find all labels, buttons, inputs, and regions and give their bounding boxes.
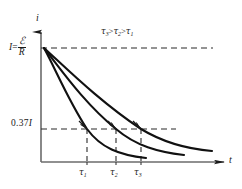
emf-over-resistance-fraction: ℰ R	[18, 36, 26, 58]
x-tick-label-tau2: τ2	[110, 167, 118, 178]
y-axis-label: i	[36, 13, 39, 23]
decay-level-label: 0.37I	[11, 119, 32, 129]
x-tick-label-tau1: τ1	[79, 167, 87, 178]
tau-inequality-annotation: τ3>τ2>τ1	[101, 27, 133, 37]
decay-level-current-symbol: I	[29, 118, 32, 128]
x-axis-label: t	[229, 155, 232, 165]
decay-level-value: 0.37	[11, 118, 29, 128]
initial-current-label: I= ℰ R	[9, 37, 26, 59]
figure-container: i t I= ℰ R 0.37I τ3>τ2>τ1 τ1 τ2 τ3	[0, 0, 242, 189]
tick-tau1-subscript: 1	[84, 172, 87, 178]
resistance-symbol: R	[18, 48, 26, 58]
tau1-subscript: 1	[130, 31, 133, 37]
tick-tau2-subscript: 2	[115, 172, 118, 178]
tick-tau3-subscript: 3	[139, 172, 142, 178]
intersection-pointer-tau2	[108, 121, 116, 129]
x-tick-label-tau3: τ3	[134, 167, 142, 178]
decay-curve-tau1	[44, 48, 146, 158]
emf-symbol: ℰ	[18, 36, 26, 46]
